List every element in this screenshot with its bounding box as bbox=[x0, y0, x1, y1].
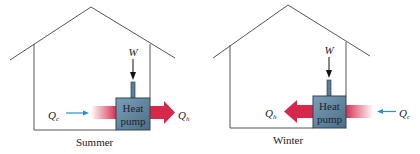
cold-heat-label: Qc bbox=[399, 107, 411, 121]
work-label: W bbox=[324, 44, 334, 56]
cold-inflow-duct bbox=[346, 105, 372, 118]
hot-outflow-arrow-icon bbox=[150, 101, 175, 124]
hot-heat-label: Qh bbox=[265, 107, 277, 121]
pump-label-line1: Heat bbox=[319, 100, 340, 112]
cold-inflow-arrow-icon bbox=[377, 109, 396, 114]
work-shaft bbox=[131, 82, 135, 98]
pump-label-line1: Heat bbox=[123, 102, 144, 114]
work-arrow-icon bbox=[130, 59, 136, 80]
work-label: W bbox=[128, 46, 138, 58]
caption-summer: Summer bbox=[76, 136, 114, 148]
hot-heat-label: Qh bbox=[178, 109, 190, 123]
pump-label-line2: pump bbox=[317, 113, 343, 125]
pump-label-line2: pump bbox=[120, 115, 146, 127]
work-shaft bbox=[327, 80, 331, 96]
cold-inflow-arrow-icon bbox=[66, 111, 89, 116]
hot-outflow-arrow-icon bbox=[284, 100, 313, 123]
cold-heat-label: Qc bbox=[48, 109, 60, 123]
cold-inflow-duct bbox=[92, 106, 116, 119]
winter-panel: Heat pump W Qh Qc Winter bbox=[213, 5, 411, 146]
caption-winter: Winter bbox=[273, 134, 303, 146]
work-arrow-icon bbox=[326, 57, 332, 78]
summer-panel: Heat pump W Qc Qh Summer bbox=[10, 7, 190, 148]
heat-pump-diagram: Heat pump W Qc Qh Summer bbox=[0, 0, 420, 154]
